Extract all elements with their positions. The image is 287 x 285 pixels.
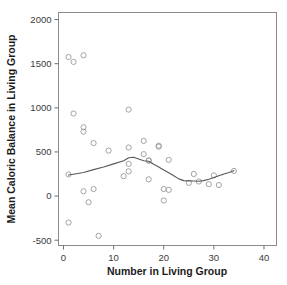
y-axis-title: Mean Caloric Balance in Living Group: [5, 34, 17, 223]
data-point: [71, 111, 76, 116]
data-point: [81, 189, 86, 194]
data-point: [206, 182, 211, 187]
x-tick-label: 0: [61, 252, 66, 263]
y-axis-ticks: -5000500100015002000: [30, 14, 58, 246]
data-point: [141, 138, 146, 143]
x-tick-label: 40: [259, 252, 270, 263]
data-point: [161, 198, 166, 203]
data-point: [71, 59, 76, 64]
data-point: [126, 161, 131, 166]
x-axis-title: Number in Living Group: [107, 265, 227, 277]
y-tick-label: -500: [32, 235, 51, 246]
x-tick-label: 20: [158, 252, 169, 263]
data-point: [91, 186, 96, 191]
data-point: [146, 177, 151, 182]
y-tick-label: 500: [36, 146, 52, 157]
data-point: [91, 141, 96, 146]
data-point: [66, 54, 71, 59]
data-point: [121, 174, 126, 179]
data-point: [216, 182, 221, 187]
data-point: [161, 186, 166, 191]
x-axis-ticks: 010203040: [61, 246, 269, 263]
chart-figure: -5000500100015002000 010203040 Mean Calo…: [0, 0, 287, 285]
y-tick-label: 1500: [30, 58, 51, 69]
data-point: [126, 145, 131, 150]
data-point: [166, 187, 171, 192]
data-point: [96, 233, 101, 238]
data-point: [66, 220, 71, 225]
plot-frame: [59, 13, 277, 246]
data-points: [66, 53, 237, 239]
x-tick-label: 10: [108, 252, 119, 263]
data-point: [86, 200, 91, 205]
data-point: [191, 171, 196, 176]
y-tick-label: 2000: [30, 14, 51, 25]
scatter-plot: -5000500100015002000 010203040 Mean Calo…: [0, 0, 287, 285]
y-tick-label: 1000: [30, 102, 51, 113]
data-point: [81, 53, 86, 58]
y-tick-label: 0: [46, 190, 51, 201]
x-tick-label: 30: [209, 252, 220, 263]
data-point: [126, 169, 131, 174]
data-point: [141, 152, 146, 157]
data-point: [126, 107, 131, 112]
data-point: [106, 148, 111, 153]
data-point: [166, 157, 171, 162]
